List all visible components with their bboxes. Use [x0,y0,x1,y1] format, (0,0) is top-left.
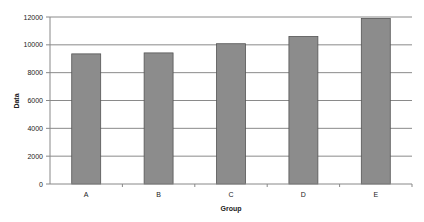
y-tick-labels: 020004000600080001000012000 [24,14,44,188]
bar-chart: 020004000600080001000012000 ABCDE Group … [0,0,424,222]
y-tick-label: 0 [39,181,43,188]
x-axis-title: Group [221,205,242,213]
x-tick-label: D [301,191,306,198]
y-tick-label: 12000 [24,14,44,21]
bar-d [289,36,318,184]
bar-e [361,18,390,184]
x-tick-label: C [228,191,233,198]
y-tick-label: 2000 [27,153,43,160]
x-tick-label: B [156,191,161,198]
bar-a [72,54,101,184]
x-tick-label: E [373,191,378,198]
y-tick-label: 10000 [24,41,44,48]
y-tick-label: 6000 [27,97,43,104]
bars [72,18,391,184]
y-tick-label: 8000 [27,69,43,76]
bar-b [144,53,173,184]
y-tick-label: 4000 [27,125,43,132]
y-axis-title: Data [13,93,20,108]
x-tick-labels: ABCDE [84,191,379,198]
x-tick-label: A [84,191,89,198]
bar-c [217,44,246,184]
